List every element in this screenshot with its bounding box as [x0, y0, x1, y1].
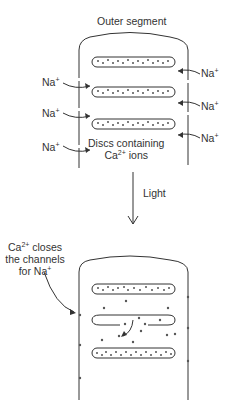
- ca-charge: 2+: [118, 149, 126, 156]
- na-charge: +: [214, 100, 218, 107]
- na-text: Na: [42, 107, 55, 119]
- closes-text: closes: [29, 241, 62, 253]
- annotation-label: Ca2+ closes the channels for Na+: [2, 241, 68, 277]
- ions-text: ions: [126, 149, 148, 161]
- light-label: Light: [143, 187, 166, 199]
- na-label-right-1: Na+: [201, 67, 219, 79]
- disc-label-line2: Ca2+ ions: [88, 149, 164, 161]
- disc-bottom-2-open: [92, 315, 175, 325]
- na-text: Na: [42, 141, 55, 153]
- disc-top-3: [92, 119, 175, 129]
- na-label-right-2: Na+: [201, 100, 219, 112]
- annotation-line1: Ca2+ closes: [2, 241, 68, 253]
- na-text: Na: [201, 67, 214, 79]
- disc-top-2: [92, 87, 175, 97]
- disc-bottom-1: [92, 284, 175, 294]
- annotation-line2: the channels: [2, 253, 68, 265]
- disc-label-line1: Discs containing: [88, 137, 164, 149]
- na-text: Na: [42, 76, 55, 88]
- na-text: Na: [201, 100, 214, 112]
- annotation-line3: for Na+: [2, 265, 68, 277]
- na-charge: +: [55, 76, 59, 83]
- disc-label: Discs containing Ca2+ ions: [88, 137, 164, 161]
- disc-top-1: [92, 57, 175, 67]
- calcium-ions: [79, 59, 189, 379]
- na-charge: +: [55, 141, 59, 148]
- outer-segment-title: Outer segment: [97, 15, 166, 27]
- na-charge: +: [47, 265, 51, 272]
- annotation-arrow: [44, 272, 74, 312]
- ca-text: Ca: [8, 241, 21, 253]
- na-label-left-3: Na+: [42, 141, 60, 153]
- disc-bottom-3: [92, 348, 175, 358]
- na-label-left-1: Na+: [42, 76, 60, 88]
- na-charge: +: [214, 132, 218, 139]
- na-text: Na: [201, 132, 214, 144]
- for-na-text: for Na: [19, 265, 48, 277]
- diagram-canvas: [0, 0, 225, 401]
- ca-text: Ca: [104, 149, 117, 161]
- na-label-left-2: Na+: [42, 107, 60, 119]
- na-charge: +: [55, 107, 59, 114]
- na-label-right-3: Na+: [201, 132, 219, 144]
- na-charge: +: [214, 67, 218, 74]
- outer-segment-bottom-outline: [79, 256, 188, 400]
